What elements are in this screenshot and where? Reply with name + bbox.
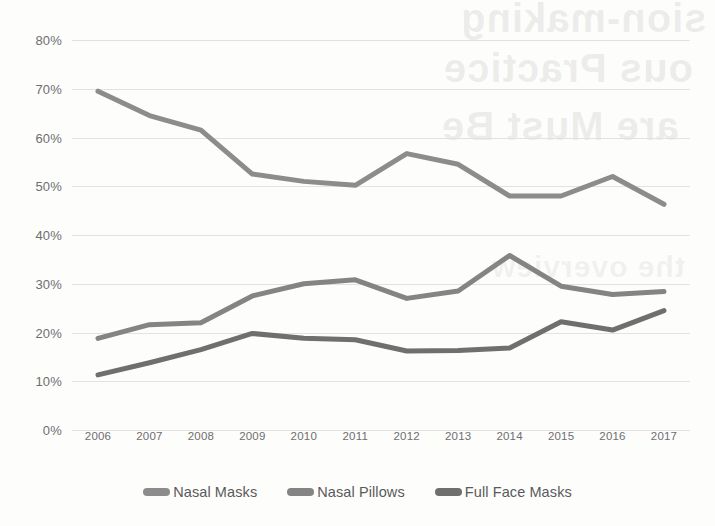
y-axis-tick-label: 50% xyxy=(35,179,62,194)
legend-label: Nasal Masks xyxy=(173,484,257,500)
series-line-nasal-masks xyxy=(98,91,664,204)
legend-item-full-face-masks[interactable]: Full Face Masks xyxy=(435,484,572,500)
x-axis-tick-label: 2011 xyxy=(343,430,369,442)
y-axis-tick-label: 0% xyxy=(43,423,62,438)
legend-item-nasal-pillows[interactable]: Nasal Pillows xyxy=(287,484,405,500)
legend-item-nasal-masks[interactable]: Nasal Masks xyxy=(143,484,257,500)
series-layer xyxy=(72,40,690,430)
legend-label: Nasal Pillows xyxy=(317,484,405,500)
legend-label: Full Face Masks xyxy=(465,484,572,500)
y-axis-tick-label: 40% xyxy=(35,228,62,243)
legend-swatch-icon xyxy=(435,488,462,496)
y-axis-labels: 0%10%20%30%40%50%60%70%80% xyxy=(0,0,72,526)
x-axis-tick-label: 2016 xyxy=(599,430,625,442)
y-axis-tick-label: 10% xyxy=(35,374,62,389)
x-axis-tick-label: 2014 xyxy=(496,430,522,442)
y-axis-tick-label: 30% xyxy=(35,276,62,291)
x-axis-tick-label: 2007 xyxy=(136,430,162,442)
x-axis-labels: 2006200720082009201020112012201320142015… xyxy=(72,430,690,454)
x-axis-tick-label: 2008 xyxy=(188,430,214,442)
x-axis-tick-label: 2006 xyxy=(85,430,111,442)
x-axis-tick-label: 2013 xyxy=(445,430,471,442)
series-line-full-face-masks xyxy=(98,311,664,375)
plot-area xyxy=(72,40,690,430)
line-chart: sion-making ous Practice are Must Be the… xyxy=(0,0,715,526)
y-axis-tick-label: 20% xyxy=(35,325,62,340)
y-axis-tick-label: 60% xyxy=(35,130,62,145)
x-axis-tick-label: 2009 xyxy=(239,430,265,442)
legend-swatch-icon xyxy=(143,488,170,496)
y-axis-tick-label: 80% xyxy=(35,33,62,48)
chart-legend: Nasal MasksNasal PillowsFull Face Masks xyxy=(0,484,715,500)
legend-swatch-icon xyxy=(287,488,314,496)
x-axis-tick-label: 2015 xyxy=(548,430,574,442)
x-axis-tick-label: 2012 xyxy=(394,430,420,442)
y-axis-tick-label: 70% xyxy=(35,81,62,96)
x-axis-tick-label: 2010 xyxy=(291,430,317,442)
watermark-bleed-line-1: sion-making xyxy=(460,0,707,41)
x-axis-tick-label: 2017 xyxy=(651,430,677,442)
